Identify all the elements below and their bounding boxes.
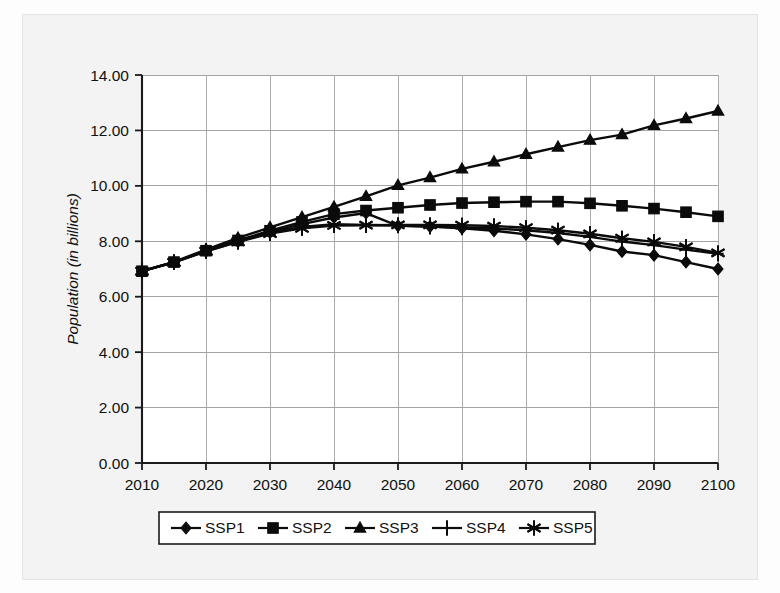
chart-plot-wrapper: 0.002.004.006.008.0010.0012.0014.00 2010…	[0, 0, 780, 593]
plot-area-background	[142, 75, 718, 463]
marker-ssp2-2095	[681, 207, 691, 217]
legend-label-ssp5: SSP5	[553, 519, 593, 536]
x-tick-label: 2050	[381, 476, 416, 493]
legend-marker-square	[268, 523, 278, 533]
x-tick-label: 2080	[573, 476, 608, 493]
chart-legend: SSP1SSP2SSP3SSP4SSP5	[159, 512, 595, 544]
marker-ssp2-2085	[617, 201, 627, 211]
x-tick-label: 2070	[509, 476, 544, 493]
legend-label-ssp3: SSP3	[379, 519, 419, 536]
x-tick-label: 2040	[317, 476, 352, 493]
y-tick-label: 6.00	[99, 288, 130, 305]
x-axis-tick-labels: 2010202020302040205020602070208020902100	[125, 476, 736, 493]
y-tick-label: 10.00	[90, 177, 129, 194]
y-axis-title: Population (in billions)	[64, 193, 81, 345]
marker-ssp2-2045	[361, 205, 371, 215]
x-tick-label: 2090	[637, 476, 672, 493]
x-tick-label: 2100	[701, 476, 736, 493]
legend-label-ssp2: SSP2	[292, 519, 332, 536]
x-tick-label: 2010	[125, 476, 160, 493]
x-tick-label: 2060	[445, 476, 480, 493]
y-tick-label: 8.00	[99, 233, 130, 250]
y-tick-label: 0.00	[99, 455, 130, 472]
marker-ssp2-2090	[649, 203, 659, 213]
marker-ssp2-2080	[585, 198, 595, 208]
marker-ssp2-2070	[521, 196, 531, 206]
marker-ssp2-2050	[393, 203, 403, 213]
y-tick-label: 2.00	[99, 399, 130, 416]
y-tick-label: 12.00	[90, 122, 129, 139]
marker-ssp2-2055	[425, 200, 435, 210]
x-tick-label: 2020	[189, 476, 224, 493]
y-axis-tick-labels: 0.002.004.006.008.0010.0012.0014.00	[90, 67, 129, 472]
y-tick-label: 4.00	[99, 344, 130, 361]
marker-ssp2-2060	[457, 198, 467, 208]
legend-label-ssp1: SSP1	[205, 519, 245, 536]
marker-ssp2-2065	[489, 197, 499, 207]
figure-container: 0.002.004.006.008.0010.0012.0014.00 2010…	[0, 0, 780, 593]
legend-label-ssp4: SSP4	[466, 519, 506, 536]
marker-ssp2-2100	[713, 211, 723, 221]
x-tick-label: 2030	[253, 476, 288, 493]
marker-ssp2-2075	[553, 196, 563, 206]
y-tick-label: 14.00	[90, 67, 129, 84]
population-projection-line-chart: 0.002.004.006.008.0010.0012.0014.00 2010…	[0, 0, 780, 593]
